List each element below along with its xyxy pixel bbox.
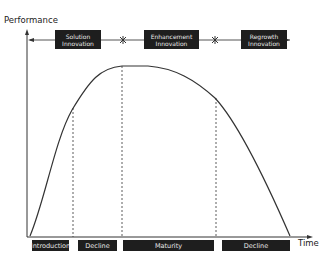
innovation-label-line2: Innovation <box>248 40 280 47</box>
phase-introduction: Introduction <box>32 240 69 251</box>
y-axis-arrow-icon <box>25 29 29 35</box>
phase-decline-late: Decline <box>222 240 290 251</box>
timeline-left-arrow-icon <box>28 38 34 42</box>
phase-decline-early: Decline <box>78 240 117 251</box>
innovation-label-line1: Regrowth <box>248 33 280 40</box>
innovation-box-regrowth: Regrowth Innovation <box>241 30 287 49</box>
x-axis-arrow-icon <box>307 235 313 239</box>
innovation-label-line1: Solution <box>62 33 94 40</box>
phase-maturity: Maturity <box>123 240 214 251</box>
innovation-label-line1: Enhancement <box>151 33 193 40</box>
performance-curve <box>30 66 290 236</box>
innovation-label-line2: Innovation <box>62 40 94 47</box>
innovation-box-solution: Solution Innovation <box>55 30 101 49</box>
innovation-box-enhancement: Enhancement Innovation <box>144 30 199 49</box>
innovation-label-line2: Innovation <box>151 40 193 47</box>
